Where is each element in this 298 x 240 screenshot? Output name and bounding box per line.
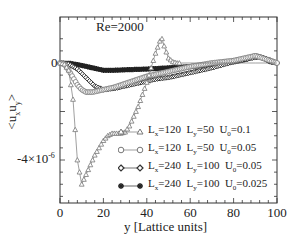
triangle-marker-icon xyxy=(84,172,89,176)
triangle-marker-icon xyxy=(153,51,158,55)
triangle-marker-icon xyxy=(68,82,73,86)
triangle-marker-icon xyxy=(160,36,165,40)
triangle-marker-icon xyxy=(90,158,95,162)
triangle-marker-icon xyxy=(142,86,147,90)
triangle-marker-icon xyxy=(162,44,167,48)
triangle-marker-icon xyxy=(155,45,160,49)
triangle-marker-icon xyxy=(75,158,80,162)
x-axis-label: y [Lattice units] xyxy=(124,219,207,235)
triangle-marker-icon xyxy=(81,177,86,181)
diamond-icon xyxy=(118,162,144,174)
triangle-marker-icon xyxy=(140,92,145,96)
triangle-marker-icon xyxy=(88,162,93,166)
xtick-label: 80 xyxy=(227,205,240,220)
legend-label: Lx=120 Ly=50 U0=0.1 xyxy=(148,123,251,138)
re-annotation: Re=2000 xyxy=(96,19,144,35)
xtick-label: 40 xyxy=(140,205,153,220)
circle-icon xyxy=(118,144,144,156)
triangle-marker-icon xyxy=(164,50,169,54)
triangle-marker-icon xyxy=(131,114,136,118)
plot-area: 020406080100 xyxy=(0,0,298,240)
ytick-neg-label: -4×10-6 xyxy=(17,151,55,167)
ytick-neg-exp: -6 xyxy=(48,151,55,160)
y-axis-label: <uxuy> xyxy=(4,94,22,130)
legend-label: Lx=120 Ly=50 U0=0.05 xyxy=(148,141,256,156)
triangle-marker-icon xyxy=(129,119,134,123)
ytick-neg-base: -4×10 xyxy=(17,151,48,166)
triangle-marker-icon xyxy=(73,127,78,131)
triangle-marker-icon xyxy=(151,58,156,62)
xtick-label: 20 xyxy=(97,205,110,220)
xtick-label: 60 xyxy=(184,205,197,220)
triangle-marker-icon xyxy=(86,167,91,171)
triangle-marker-icon xyxy=(71,97,76,101)
triangle-marker-icon xyxy=(138,98,143,102)
legend-label: Lx=240 Ly=100 U0=0.05 xyxy=(148,159,262,174)
triangle-marker-icon xyxy=(77,170,82,174)
triangle-marker-icon xyxy=(79,182,84,186)
plot-frame xyxy=(60,17,277,203)
triangle-marker-icon xyxy=(134,109,139,113)
triangle-marker-icon xyxy=(136,104,141,108)
xtick-label: 100 xyxy=(267,205,287,220)
star-icon xyxy=(118,180,144,192)
xtick-label: 0 xyxy=(57,205,64,220)
legend-label: Lx=240 Ly=100 U0=0.025 xyxy=(148,177,267,192)
ytick-zero-label: 0 xyxy=(51,55,58,71)
triangle-icon xyxy=(118,126,144,138)
